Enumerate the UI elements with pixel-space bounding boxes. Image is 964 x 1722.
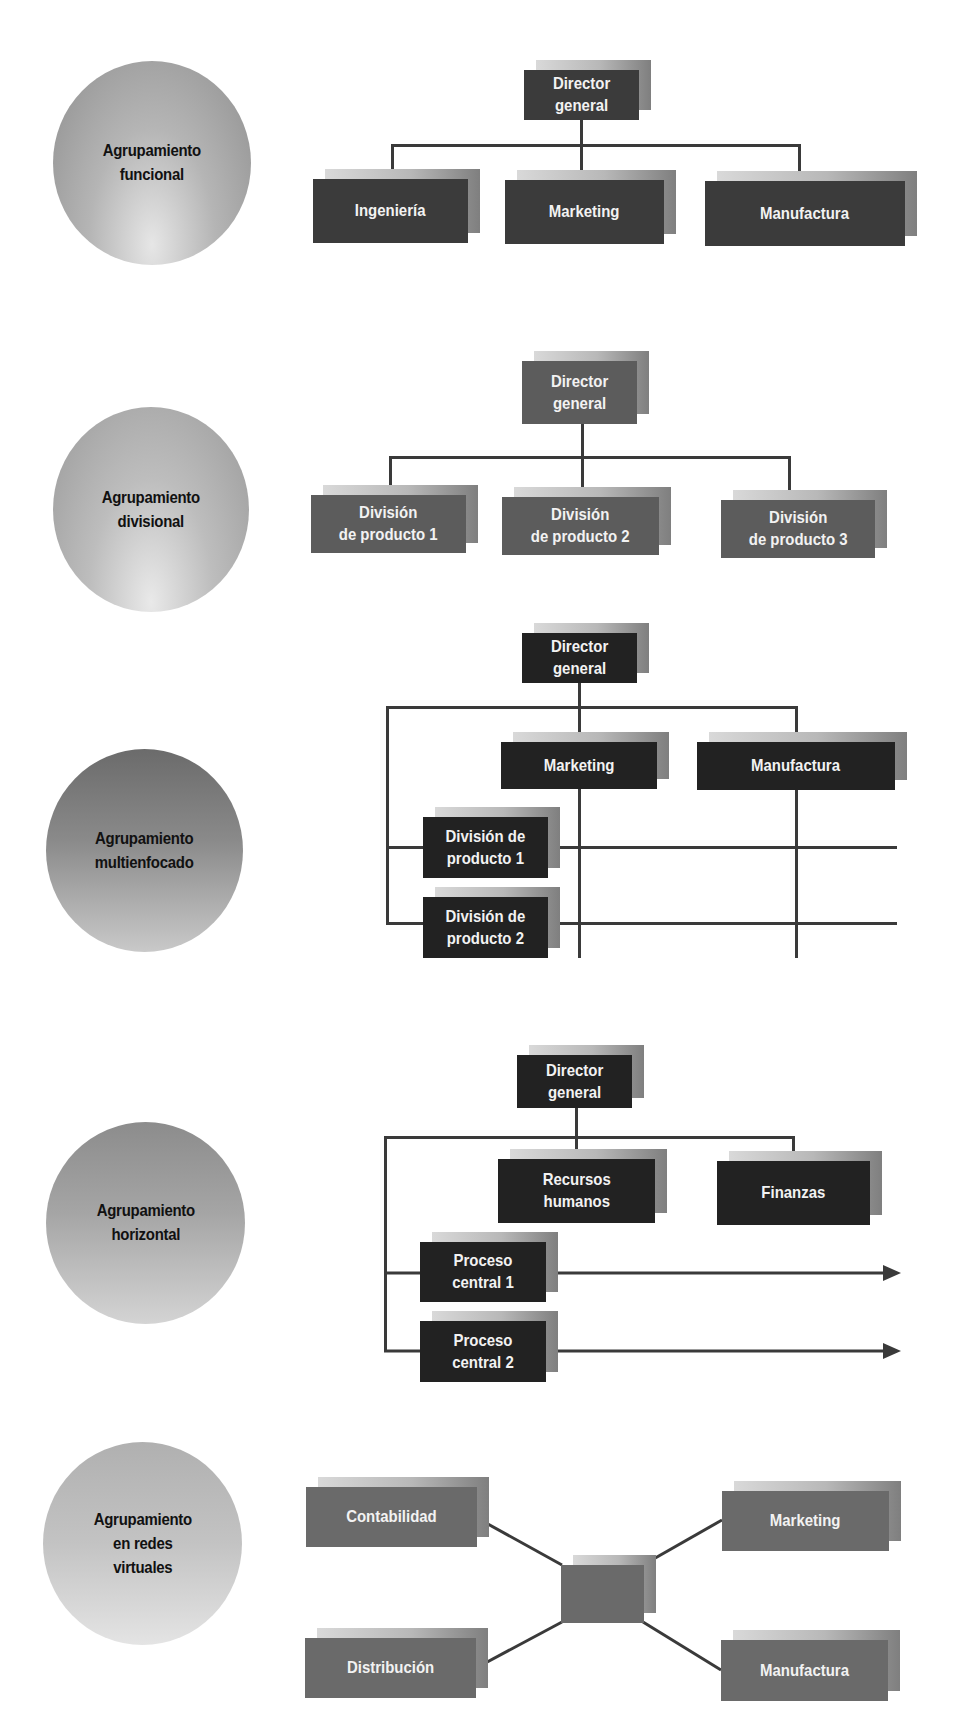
unit-label: Distribución [347,1657,434,1679]
unit-label: Marketing [549,201,620,223]
division-box-3: División de producto 3 [721,500,875,558]
unit-label: División de producto 1 [339,502,438,546]
director-label: Director general [553,73,610,117]
division-box-1: División de producto 1 [423,817,548,878]
unit-label: Contabilidad [346,1506,437,1528]
function-box-manufactura: Manufactura [697,742,895,790]
director-label: Director general [546,1060,603,1104]
unit-box-ingenieria: Ingeniería [313,179,468,243]
node-box-distribucion: Distribución [305,1638,476,1698]
unit-box-marketing: Marketing [505,180,664,244]
unit-label: División de producto 2 [531,504,630,548]
unit-label: Proceso central 1 [452,1250,514,1294]
director-box-functional: Director general [524,70,639,120]
unit-label: Proceso central 2 [452,1330,514,1374]
function-box-marketing: Marketing [501,742,657,789]
division-box-1: División de producto 1 [311,495,466,553]
unit-label: Marketing [770,1510,841,1532]
process-box-2: Proceso central 2 [420,1321,546,1382]
unit-label: Manufactura [760,1660,849,1682]
unit-label: Finanzas [761,1182,825,1204]
unit-label: División de producto 2 [446,906,526,950]
node-box-contabilidad: Contabilidad [306,1487,477,1547]
division-box-2: División de producto 2 [502,497,659,555]
node-box-marketing: Marketing [722,1491,889,1551]
division-box-2: División de producto 2 [423,897,548,958]
unit-label: División de producto 3 [749,507,848,551]
process-box-1: Proceso central 1 [420,1242,546,1302]
unit-label: Ingeniería [355,200,426,222]
director-box-horizontal: Director general [517,1055,632,1108]
hub-box [561,1565,644,1623]
unit-label: División de producto 1 [446,826,526,870]
node-box-manufactura: Manufactura [721,1640,888,1701]
function-box-finanzas: Finanzas [717,1161,870,1225]
unit-label: Manufactura [761,203,850,225]
unit-box-manufactura: Manufactura [705,181,905,246]
director-box-divisional: Director general [522,361,637,424]
function-box-hr: Recursos humanos [498,1159,655,1223]
unit-label: Marketing [544,755,615,777]
director-box-multifocused: Director general [522,633,637,683]
unit-label: Manufactura [752,755,841,777]
director-label: Director general [551,371,608,415]
director-label: Director general [551,636,608,680]
unit-label: Recursos humanos [542,1169,610,1213]
